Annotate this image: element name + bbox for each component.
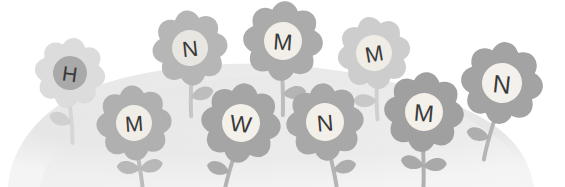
- flower-illustration: HNMMNMWNM: [0, 0, 565, 187]
- flower-letter-m: M: [413, 99, 435, 128]
- flower-letter-n: N: [491, 69, 512, 99]
- flower-letter-w: W: [229, 110, 254, 138]
- scene-canvas: HNMMNMWNM: [0, 0, 565, 187]
- flower-letter-n: N: [316, 109, 335, 136]
- flower-letter-m: M: [124, 111, 144, 137]
- flower-letter-h: H: [61, 62, 79, 87]
- flower-letter-n: N: [181, 36, 199, 63]
- flower-letter-m: M: [272, 28, 293, 55]
